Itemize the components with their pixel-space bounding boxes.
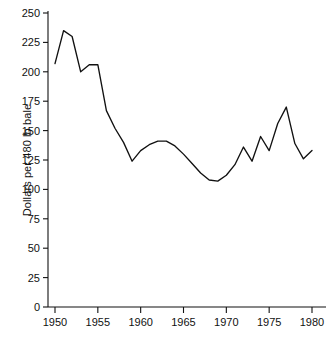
y-axis-tick-label: 125 <box>22 154 40 166</box>
data-series-line <box>55 31 312 182</box>
y-axis-tick-label: 200 <box>22 66 40 78</box>
y-axis-tick-label: 225 <box>22 36 40 48</box>
y-axis-tick-label: 25 <box>28 272 40 284</box>
x-axis-tick-label: 1960 <box>128 316 152 328</box>
x-axis-tick-label: 1965 <box>171 316 195 328</box>
y-axis-tick-group: 0255075100125150175200225250 <box>22 7 48 313</box>
x-axis-tick-label: 1970 <box>214 316 238 328</box>
y-axis-tick-label: 175 <box>22 95 40 107</box>
y-axis-tick-label: 250 <box>22 7 40 19</box>
x-axis-tick-label: 1980 <box>300 316 324 328</box>
y-axis-tick-label: 100 <box>22 183 40 195</box>
x-axis-tick-label: 1950 <box>43 316 67 328</box>
y-axis-tick-label: 75 <box>28 213 40 225</box>
x-axis-tick-label: 1975 <box>257 316 281 328</box>
line-chart: Dollars per 480 lb bale 0255075100125150… <box>0 0 329 364</box>
x-axis-tick-label: 1955 <box>86 316 110 328</box>
y-axis-tick-label: 0 <box>34 301 40 313</box>
y-axis-tick-label: 150 <box>22 125 40 137</box>
chart-canvas: 0255075100125150175200225250 19501955196… <box>0 0 329 364</box>
x-axis-tick-group: 1950195519601965197019751980 <box>43 307 324 328</box>
y-axis-tick-label: 50 <box>28 242 40 254</box>
